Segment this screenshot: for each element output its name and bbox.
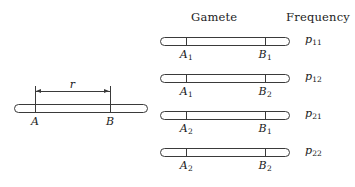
locus-a-tick — [186, 75, 187, 82]
allele-a-label: A1 — [180, 48, 193, 61]
gamete-chromosome-bar — [160, 148, 290, 157]
arrow-left-icon — [36, 89, 41, 93]
locus-b-label: B — [106, 115, 114, 128]
locus-b-tick — [265, 38, 266, 45]
gamete-chromosome-bar — [160, 111, 290, 120]
allele-b-label: B2 — [259, 85, 272, 98]
locus-a-tick — [186, 149, 187, 156]
arrow-right-icon — [104, 89, 109, 93]
allele-b-label: B2 — [259, 159, 272, 172]
locus-b-tick — [265, 149, 266, 156]
allele-b-label: B1 — [259, 122, 272, 135]
distance-tick-right — [110, 86, 111, 105]
allele-a-label: A2 — [180, 122, 193, 135]
gamete-chromosome-bar — [160, 37, 290, 46]
recombination-distance-label: r — [70, 78, 75, 91]
allele-a-label: A1 — [180, 85, 193, 98]
locus-a-tick — [186, 112, 187, 119]
locus-b-tick — [265, 112, 266, 119]
allele-b-label: B1 — [259, 48, 272, 61]
distance-line — [35, 91, 110, 92]
locus-a-label: A — [31, 115, 39, 128]
gamete-frequency-label: p22 — [305, 144, 322, 157]
gamete-frequency-label: p12 — [305, 70, 322, 83]
gamete-frequency-label: p21 — [305, 107, 322, 120]
gamete-chromosome-bar — [160, 74, 290, 83]
locus-b-tick — [265, 75, 266, 82]
genetics-recombination-figure: Gamete Frequency r A B A1B1p11A1B2p12A2B… — [0, 0, 355, 187]
gamete-frequency-label: p11 — [305, 33, 322, 46]
locus-b-tick — [110, 105, 111, 112]
allele-a-label: A2 — [180, 159, 193, 172]
column-header-frequency: Frequency — [286, 10, 350, 24]
locus-a-tick — [186, 38, 187, 45]
column-header-gamete: Gamete — [191, 10, 237, 24]
locus-a-tick — [35, 105, 36, 112]
